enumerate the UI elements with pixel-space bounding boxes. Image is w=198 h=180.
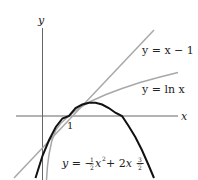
parabola-label: y = − 1 2 x 2 + 2x − 3 2	[61, 155, 145, 171]
graph: y x 1 y = x − 1 y = ln x y = − 1 2 x 2 +…	[0, 0, 198, 180]
x-axis-label: x	[181, 110, 188, 123]
svg-text:1: 1	[90, 156, 94, 163]
ln-curve-label: y = ln x	[141, 83, 186, 96]
tangent-line-label: y = x − 1	[141, 44, 194, 57]
y-axis-label: y	[37, 14, 45, 27]
svg-text:y = −: y = −	[61, 157, 94, 170]
svg-text:3: 3	[138, 156, 142, 163]
svg-text:2: 2	[138, 164, 142, 171]
svg-text:2: 2	[90, 164, 94, 171]
svg-text:x: x	[95, 157, 102, 170]
